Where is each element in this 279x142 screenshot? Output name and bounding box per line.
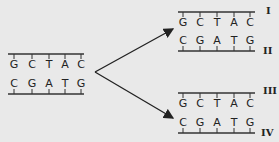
base-letter: C xyxy=(77,58,85,71)
base-letter: A xyxy=(61,58,69,71)
base-letter: C xyxy=(246,16,254,29)
base-letter: T xyxy=(45,58,53,71)
base-letter: C xyxy=(179,34,187,47)
base-letter: G xyxy=(196,116,205,129)
product-strand-II: C G A T G II xyxy=(178,34,273,56)
base-letter: C xyxy=(196,16,204,29)
dna-replication-diagram: G C T A C C G A T G G C T A C I xyxy=(0,0,279,142)
base-letter: C xyxy=(28,58,36,71)
base-letter: A xyxy=(213,34,221,47)
parent-duplex: G C T A C C G A T G xyxy=(8,54,85,94)
product-strand-IV: C G A T G IV xyxy=(178,116,274,138)
base-letter: C xyxy=(179,116,187,129)
strand-label: IV xyxy=(261,127,274,138)
base-letter: G xyxy=(179,97,188,110)
base-letter: G xyxy=(246,116,255,129)
base-letter: A xyxy=(230,16,238,29)
base-letter: C xyxy=(246,97,254,110)
base-letter: T xyxy=(230,34,238,47)
product-strand-I: G C T A C I xyxy=(178,5,271,29)
base-letter: A xyxy=(213,116,221,129)
arrow-down-icon xyxy=(95,72,173,118)
base-letter: G xyxy=(77,77,86,90)
base-letter: G xyxy=(28,77,37,90)
product-strand-III: G C T A C III xyxy=(178,85,277,110)
base-letter: T xyxy=(213,16,221,29)
base-letter: T xyxy=(61,77,69,90)
base-letter: A xyxy=(45,77,53,90)
base-letter: G xyxy=(179,16,188,29)
strand-label: I xyxy=(266,5,271,16)
strand-label: II xyxy=(263,45,273,56)
base-letter: C xyxy=(10,77,18,90)
base-letter: T xyxy=(230,116,238,129)
base-letter: G xyxy=(196,34,205,47)
strand-label: III xyxy=(263,85,277,96)
base-letter: G xyxy=(10,58,19,71)
arrow-up-icon xyxy=(95,29,173,72)
base-letter: C xyxy=(196,97,204,110)
base-letter: G xyxy=(246,34,255,47)
base-letter: A xyxy=(230,97,238,110)
base-letter: T xyxy=(213,97,221,110)
